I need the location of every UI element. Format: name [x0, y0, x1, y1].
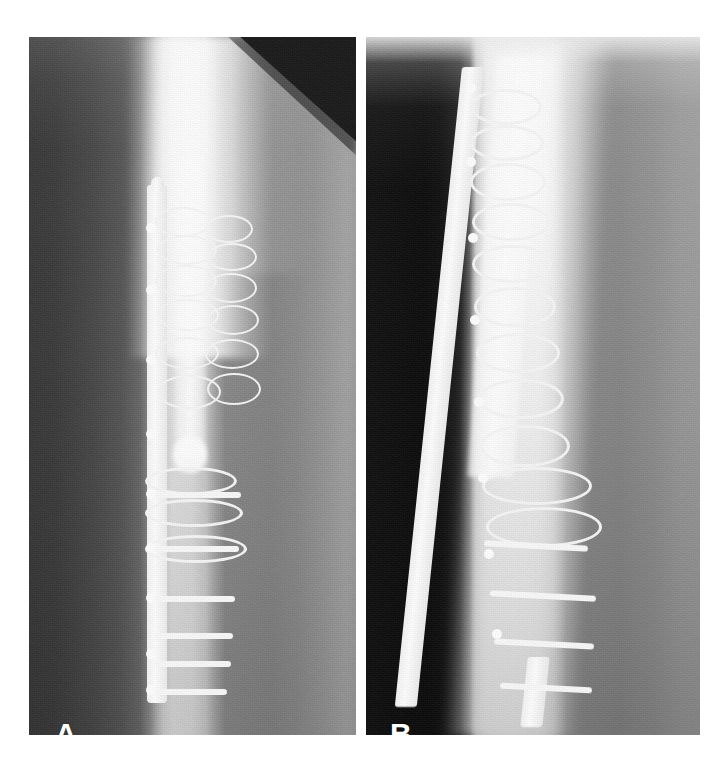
panel-a-cerclage-wire-lateral	[205, 273, 257, 303]
panel-b-cerclage-wire	[478, 379, 564, 419]
panel-b-label: B	[390, 719, 412, 735]
panel-b-screw-head	[466, 157, 476, 167]
panel-a-screw-head	[146, 429, 156, 439]
panel-a-screw-head	[146, 355, 156, 365]
panel-a-plate-proximal-tip	[151, 177, 164, 193]
panel-b-cerclage-wire	[472, 245, 552, 283]
panel-a-cerclage-wire-lateral	[205, 339, 259, 369]
panel-a-cerclage-wire	[145, 499, 243, 527]
panel-b-screw-head	[484, 549, 494, 559]
panel-b-screw-head	[492, 629, 502, 639]
panel-a-cerclage-wire-lateral	[205, 215, 253, 243]
panel-a-screw-head	[146, 285, 156, 295]
panel-a-radiograph[interactable]: A	[29, 37, 356, 735]
panel-b-radiograph[interactable]: B	[366, 37, 700, 735]
radiograph-figure: A	[0, 0, 728, 765]
panel-b-cerclage-wire	[474, 287, 556, 327]
panel-a-cerclage-wire-lateral	[207, 305, 259, 335]
panel-b-screw-head	[478, 473, 488, 483]
panel-b-screw-head	[470, 315, 480, 325]
panel-a-cerclage-wire-lateral	[207, 243, 257, 271]
panel-b-screw-head	[466, 83, 476, 93]
panel-a-screw	[155, 546, 239, 552]
panel-b-cerclage-wire	[480, 425, 570, 467]
panel-b-cerclage-wire	[470, 125, 544, 161]
panel-b-cerclage-wire	[470, 163, 546, 201]
panel-b-screw-head	[474, 397, 484, 407]
panel-a-cerclage-wire	[155, 207, 211, 237]
panel-b-cerclage-wire	[472, 203, 550, 241]
panel-a-screw	[155, 492, 241, 498]
panel-b-cerclage-wire	[476, 333, 560, 373]
panel-a-screw	[155, 661, 231, 667]
panel-b-screw-head	[468, 233, 478, 243]
panel-a-screw	[155, 633, 233, 639]
panel-a-screw	[155, 596, 235, 602]
panel-a-screw-head	[146, 649, 156, 659]
panel-a-label: A	[55, 719, 77, 735]
panel-b-cerclage-wire	[482, 467, 592, 505]
panel-a-screw-head	[146, 223, 156, 233]
panel-a-bone-plate	[147, 185, 167, 697]
panel-a-cerclage-wire	[145, 467, 237, 495]
panel-a-screw	[155, 689, 227, 695]
panel-a-cerclage-wire-lateral	[207, 373, 261, 405]
panel-b-cerclage-wire	[470, 89, 542, 125]
